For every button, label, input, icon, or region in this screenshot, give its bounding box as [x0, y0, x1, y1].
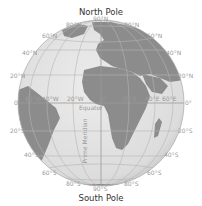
label-60n-right: 60°N: [147, 33, 162, 39]
label-40e: 40°E: [145, 96, 159, 102]
label-40n-right: 40°N: [166, 50, 181, 56]
label-90n: 90°N: [93, 16, 108, 22]
prime-meridian-label: Prime Meridian: [82, 118, 88, 163]
label-40s-left: 40°S: [24, 152, 38, 158]
label-20w: 20°W: [67, 96, 84, 102]
label-eq-right: 0°: [185, 100, 192, 106]
label-60w: 60°W: [25, 96, 42, 102]
label-60n-left: 60°N: [42, 33, 57, 39]
label-60s-right: 60°S: [147, 170, 161, 176]
label-40s-right: 40°S: [164, 152, 178, 158]
label-20n-left: 20°N: [10, 73, 25, 79]
graticule: [0, 20, 202, 186]
label-80n-right: 80°N: [124, 22, 139, 28]
label-20e: 20°E: [122, 96, 136, 102]
label-80n-left: 80°N: [66, 22, 81, 28]
label-20n-right: 20°N: [178, 73, 193, 79]
label-20s-left: 20°S: [10, 128, 24, 134]
label-60s-left: 60°S: [42, 170, 56, 176]
label-90s: 90°S: [93, 186, 107, 192]
south-pole-title: South Pole: [0, 193, 202, 203]
label-40n-left: 40°N: [22, 50, 37, 56]
label-80s-left: 80°S: [66, 181, 80, 187]
label-60e: 60°E: [162, 96, 176, 102]
globe: [0, 0, 202, 206]
equator-label: Equator: [79, 105, 103, 111]
label-0: 0°: [100, 96, 107, 102]
label-20s-right: 20°S: [178, 128, 192, 134]
label-40w: 40°W: [42, 96, 59, 102]
label-eq-left: 0°: [14, 100, 21, 106]
label-80s-right: 80°S: [124, 181, 138, 187]
